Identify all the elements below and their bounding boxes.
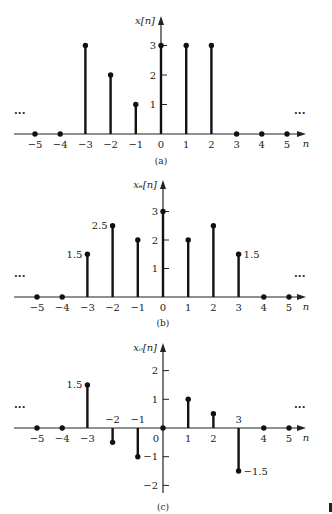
- stem-marker: [234, 131, 239, 136]
- x-tick-label: 3: [233, 139, 239, 150]
- stem-marker: [110, 223, 115, 228]
- x-tick-label: −4: [53, 139, 68, 150]
- x-tick-label: 3: [235, 302, 241, 313]
- ellipsis-left: ···: [14, 401, 26, 414]
- x-tick-label: −2: [105, 414, 120, 425]
- stem-marker: [286, 425, 291, 430]
- y-axis-label: xₑ[n]: [133, 179, 157, 190]
- stem-marker: [85, 252, 90, 257]
- stem-marker: [135, 237, 140, 242]
- x-tick-label: −5: [28, 139, 43, 150]
- x-tick-label: −1: [130, 414, 145, 425]
- x-axis-label: n: [303, 301, 309, 312]
- y-tick-label: 2: [152, 365, 158, 376]
- y-axis-arrow-icon: [160, 343, 166, 352]
- stem-marker: [110, 440, 115, 445]
- x-tick-label: 0: [160, 302, 166, 313]
- x-axis-label: n: [303, 432, 309, 443]
- y-tick-label: 2: [150, 70, 156, 81]
- stem-marker: [58, 131, 63, 136]
- value-label: 1.5: [244, 249, 260, 260]
- y-tick-label: 2: [152, 235, 158, 246]
- stem-marker: [211, 411, 216, 416]
- x-tick-label: 4: [259, 139, 265, 150]
- x-tick-label: −2: [103, 139, 118, 150]
- stem-marker: [85, 382, 90, 387]
- x-tick-label: 3: [235, 414, 241, 425]
- x-tick-label: −3: [80, 302, 95, 313]
- x-tick-label: −4: [55, 433, 70, 444]
- y-tick-label: 3: [152, 206, 158, 217]
- ellipsis-right: ···: [294, 107, 306, 120]
- stem-marker: [160, 209, 165, 214]
- x-tick-label: 2: [208, 139, 214, 150]
- stem-marker: [261, 294, 266, 299]
- stem-marker: [83, 43, 88, 48]
- subplot-caption: (a): [155, 156, 167, 166]
- x-tick-label: 1: [183, 139, 189, 150]
- y-tick-label: 1: [150, 99, 156, 110]
- x-tick-label: −4: [55, 302, 70, 313]
- x-tick-label: −5: [30, 433, 45, 444]
- stem-plots: x[n]n123−5−4−3−2−1012345······(a)xₑ[n]n1…: [0, 0, 332, 514]
- x-axis-arrow-icon: [297, 294, 306, 300]
- stem-marker: [158, 43, 163, 48]
- stem-marker: [236, 468, 241, 473]
- x-axis-label: n: [303, 138, 309, 149]
- x-tick-label: 5: [284, 139, 290, 150]
- x-tick-label: 2: [210, 302, 216, 313]
- stem-marker: [34, 294, 39, 299]
- stem-marker: [108, 72, 113, 77]
- stem-marker: [286, 294, 291, 299]
- value-label: 1.5: [66, 249, 82, 260]
- stem-marker: [259, 131, 264, 136]
- subplot-caption: (c): [157, 502, 169, 512]
- stem-marker: [184, 43, 189, 48]
- ellipsis-left: ···: [14, 270, 26, 283]
- stem-marker: [211, 223, 216, 228]
- x-tick-label: 4: [261, 433, 267, 444]
- y-axis-arrow-icon: [160, 180, 166, 189]
- stem-marker: [60, 425, 65, 430]
- stem-marker: [186, 237, 191, 242]
- y-axis-arrow-icon: [158, 16, 164, 25]
- y-tick-label: −1: [143, 451, 158, 462]
- stem-marker: [32, 131, 37, 136]
- x-tick-label: 1: [185, 433, 191, 444]
- stem-marker: [284, 131, 289, 136]
- x-axis-arrow-icon: [297, 425, 306, 431]
- stem-marker: [186, 397, 191, 402]
- stem-marker: [135, 454, 140, 459]
- x-tick-label: 1: [185, 302, 191, 313]
- stem-marker: [60, 294, 65, 299]
- ellipsis-left: ···: [14, 107, 26, 120]
- y-axis-label: x[n]: [135, 15, 155, 26]
- stem-marker: [160, 425, 165, 430]
- stem-marker: [133, 102, 138, 107]
- x-tick-label: −3: [80, 433, 95, 444]
- value-label: −1.5: [244, 466, 268, 477]
- stem-marker: [34, 425, 39, 430]
- value-label: 2.5: [92, 220, 108, 231]
- y-tick-label: −2: [143, 480, 158, 491]
- subplot-caption: (b): [157, 318, 170, 328]
- ellipsis-right: ···: [294, 401, 306, 414]
- x-tick-label: −5: [30, 302, 45, 313]
- x-tick-label: −1: [128, 139, 143, 150]
- x-tick-label: 5: [286, 433, 292, 444]
- x-axis-arrow-icon: [297, 131, 306, 137]
- x-tick-label: 2: [210, 433, 216, 444]
- y-tick-label: 3: [150, 40, 156, 51]
- stem-marker: [236, 252, 241, 257]
- stem-marker: [209, 43, 214, 48]
- x-tick-label: 0: [153, 433, 159, 444]
- value-label: 1.5: [66, 379, 82, 390]
- x-tick-label: 4: [261, 302, 267, 313]
- x-tick-label: −2: [105, 302, 120, 313]
- y-axis-label: xₒ[n]: [133, 342, 157, 353]
- y-tick-label: 1: [152, 394, 158, 405]
- x-tick-label: −3: [78, 139, 93, 150]
- x-tick-label: 0: [158, 139, 164, 150]
- y-tick-label: 1: [152, 263, 158, 274]
- stem-marker: [261, 425, 266, 430]
